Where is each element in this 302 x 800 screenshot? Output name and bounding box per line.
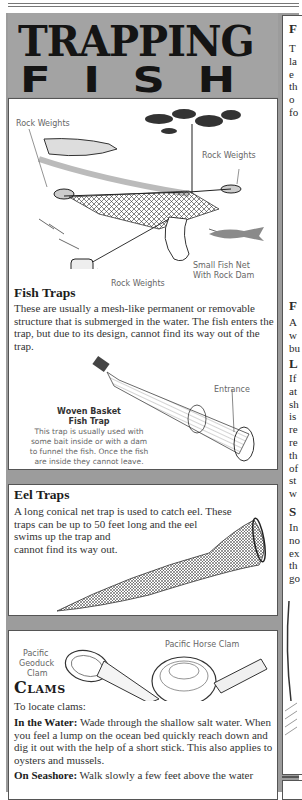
label-rock-weights-top-right: Rock Weights: [202, 151, 256, 160]
right-text-line: bu: [289, 342, 300, 355]
right-panel-top: F T la e th o fo F A w bu L If at sh is …: [282, 15, 302, 775]
right-lines-3: If at sh is re re th of st w: [289, 372, 299, 500]
top-rule: [8, 3, 299, 4]
right-text-line: th: [289, 80, 298, 93]
right-text-line: ex: [289, 547, 300, 560]
page-title-line1: TRAPPING: [18, 20, 254, 62]
right-panel-bottom: [282, 780, 302, 800]
right-text-line: go: [289, 572, 300, 585]
right-heading-4: S: [289, 504, 296, 520]
right-text-line: w: [289, 487, 299, 500]
seashore-body: Walk slowly a few feet above the water: [77, 769, 253, 781]
eel-trap-illustration: [9, 485, 277, 615]
right-text-line: re: [289, 423, 299, 436]
basket-title-line1: Woven Basket: [19, 407, 159, 417]
right-text-line: If: [289, 372, 299, 385]
fish-traps-heading: Fish Traps: [14, 285, 75, 301]
fish-traps-panel: Rock Weights Rock Weights Rock Weights S…: [8, 98, 278, 470]
clams-intro: To locate clams:: [14, 700, 86, 713]
label-rock-dam: With Rock Dam: [193, 271, 254, 280]
right-text-line: st: [289, 474, 299, 487]
label-rock-weights-top-left: Rock Weights: [16, 119, 70, 128]
basket-title-line2: Fish Trap: [19, 417, 159, 427]
right-text-line: at: [289, 385, 299, 398]
label-geoduck-line3: Clam: [27, 669, 48, 678]
right-heading-2: F: [289, 298, 297, 314]
right-text-line: th: [289, 559, 300, 572]
right-text-line: th: [289, 449, 299, 462]
right-text-line: no: [289, 534, 300, 547]
label-entrance: Entrance: [214, 385, 250, 394]
right-lines-1: T la e th o fo: [289, 42, 298, 119]
label-horse-clam: Pacific Horse Clam: [165, 640, 239, 649]
right-text-line: la: [289, 55, 298, 68]
fish-traps-body: These are usually a mesh-like permanent …: [14, 302, 276, 352]
clams-in-water: In the Water: Wade through the shallow s…: [14, 716, 276, 766]
right-heading-3: L: [289, 356, 298, 372]
right-text-line: re: [289, 436, 299, 449]
top-rule: [8, 6, 299, 7]
basket-caption-line: to funnel the fish. Once the fish: [19, 447, 159, 457]
right-text-line: e: [289, 68, 298, 81]
label-geoduck-line1: Pacific: [23, 649, 48, 658]
in-water-lead: In the Water:: [14, 716, 77, 728]
right-text-line: is: [289, 410, 299, 423]
right-text-line: of: [289, 462, 299, 475]
seashore-lead: On Seashore:: [14, 769, 77, 781]
eel-traps-panel: Eel Traps A long conical net trap is use…: [8, 484, 278, 616]
page-title-line2: FISH: [20, 63, 268, 97]
right-lines-2: A w bu: [289, 316, 300, 354]
label-rock-weights-bottom: Rock Weights: [111, 279, 165, 288]
right-text-line: o: [289, 93, 298, 106]
basket-caption-line: are inside they cannot leave.: [19, 457, 159, 467]
right-heading-1: F: [289, 21, 297, 37]
label-small-fish-net: Small Fish Net: [193, 261, 250, 270]
label-geoduck-line2: Geoduck: [19, 659, 54, 668]
title-banner: TRAPPING FISH: [8, 13, 278, 97]
right-illustration-fragment: [283, 591, 302, 775]
right-text-line: A: [289, 316, 300, 329]
basket-caption-line: This trap is usually used with: [19, 427, 159, 437]
right-panel-divider: [282, 776, 299, 778]
clams-seashore: On Seashore: Walk slowly a few feet abov…: [14, 769, 276, 782]
right-text-line: T: [289, 42, 298, 55]
clams-panel: Pacific Geoduck Clam Pacific Horse Clam …: [8, 630, 278, 800]
clams-heading: Clams: [14, 678, 66, 697]
right-text-line: fo: [289, 106, 298, 119]
basket-caption-line: some bait inside or with a dam: [19, 437, 159, 447]
right-text-line: In: [289, 521, 300, 534]
basket-caption: Woven Basket Fish Trap This trap is usua…: [19, 407, 159, 467]
right-text-line: w: [289, 329, 300, 342]
right-text-line: sh: [289, 398, 299, 411]
right-lines-4: In no ex th go: [289, 521, 300, 585]
